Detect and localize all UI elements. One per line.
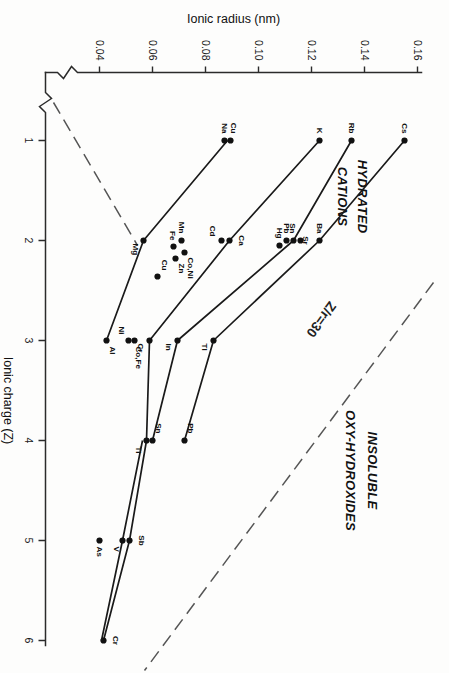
label-sn2: Sn bbox=[287, 223, 296, 233]
y-axis-title: Ionic radius (nm) bbox=[186, 11, 279, 25]
y-tick-5: 0.14 bbox=[358, 40, 370, 61]
label-cofe: Co,Fe bbox=[133, 346, 142, 369]
x-tick-3: 3 bbox=[22, 337, 34, 343]
label-sn4: Sn bbox=[153, 423, 162, 433]
point-cu1 bbox=[227, 137, 233, 143]
label-cu1: Cu bbox=[228, 122, 237, 133]
point-sb bbox=[126, 537, 132, 543]
boundary-zr30 bbox=[53, 102, 433, 670]
y-tick-0: 0.04 bbox=[93, 40, 105, 61]
x-axis-title: Ionic charge (Z) bbox=[0, 356, 14, 444]
point-cs bbox=[401, 137, 407, 143]
y-tick-4: 0.12 bbox=[305, 40, 317, 61]
label-as: As bbox=[94, 546, 103, 557]
label-sb: Sb bbox=[136, 535, 145, 545]
label-k: K bbox=[314, 127, 323, 133]
y-axis-ticks bbox=[99, 66, 417, 72]
point-fe bbox=[170, 243, 176, 249]
point-mn bbox=[178, 237, 184, 243]
point-pb2 bbox=[283, 237, 289, 243]
point-hg bbox=[276, 242, 282, 248]
label-mn: Mn bbox=[176, 221, 185, 233]
boundary-label-zr30: Z/r=30 bbox=[303, 298, 339, 339]
label-in: In bbox=[163, 343, 172, 350]
x-tick-4: 4 bbox=[22, 437, 34, 443]
x-tick-6: 6 bbox=[22, 637, 34, 643]
label-tl: Tl bbox=[199, 343, 208, 350]
point-in bbox=[174, 337, 180, 343]
region-label-insoluble-oxyhydroxides: INSOLUBLE OXY-HYDROXIDES bbox=[342, 410, 379, 531]
label-fe: Fe bbox=[167, 231, 176, 241]
ionic-radius-vs-charge-chart: 0.04 0.06 0.08 0.10 0.12 0.14 0.16 Ionic… bbox=[0, 0, 449, 673]
label-na: Na bbox=[219, 123, 228, 134]
label-al: Al bbox=[107, 346, 116, 354]
point-cofe bbox=[131, 337, 137, 343]
figure-page: 0.04 0.06 0.08 0.10 0.12 0.14 0.16 Ionic… bbox=[0, 0, 449, 673]
point-ti4 bbox=[143, 437, 149, 443]
scatter-z2-cluster: Pb Sn Hg Cd Mn Co,Ni Fe Zn Cu bbox=[154, 221, 303, 279]
label-mg: Mg bbox=[130, 243, 139, 255]
point-coni bbox=[181, 249, 187, 255]
label-pb4: Pb bbox=[185, 423, 194, 433]
series-k-ca-cr-sb-cr6: K Ca Cr Ti Sb Cr bbox=[100, 127, 323, 645]
y-tick-1: 0.06 bbox=[146, 40, 158, 61]
region-label-hydrated-cations: HYDRATED CATIONS bbox=[334, 159, 369, 233]
point-ni3 bbox=[125, 337, 131, 343]
x-tick-1: 1 bbox=[22, 137, 34, 143]
point-cu2 bbox=[154, 273, 160, 279]
label-ca: Ca bbox=[236, 235, 245, 246]
series-rb-sr-in-sn: Rb Sr In Sn bbox=[149, 122, 355, 443]
label-rb: Rb bbox=[346, 122, 355, 133]
label-cs: Cs bbox=[399, 123, 408, 134]
label-v: V bbox=[111, 546, 120, 552]
region-hydrated-line2: CATIONS bbox=[334, 166, 349, 226]
label-coni: Co,Ni bbox=[185, 257, 194, 278]
label-hg: Hg bbox=[274, 227, 283, 238]
point-sn4 bbox=[149, 437, 155, 443]
point-as bbox=[96, 537, 102, 543]
label-zn: Zn bbox=[176, 263, 185, 273]
y-tick-6: 0.16 bbox=[411, 40, 423, 61]
x-axis-tick-labels: 1 2 3 4 5 6 bbox=[22, 137, 34, 643]
x-tick-2: 2 bbox=[22, 237, 34, 243]
point-k bbox=[316, 137, 322, 143]
point-na bbox=[221, 137, 227, 143]
x-tick-5: 5 bbox=[22, 537, 34, 543]
point-pb4 bbox=[181, 437, 187, 443]
label-cr6: Cr bbox=[110, 636, 119, 646]
label-ba: Ba bbox=[314, 223, 323, 234]
region-insoluble-line2: OXY-HYDROXIDES bbox=[342, 410, 357, 531]
region-insoluble-line1: INSOLUBLE bbox=[364, 431, 379, 509]
x-axis-ticks bbox=[38, 140, 45, 640]
point-cd bbox=[218, 237, 224, 243]
label-cu2: Cu bbox=[159, 259, 168, 270]
x-axis bbox=[39, 72, 51, 645]
scatter-z3-z5: Ni Co,Fe As bbox=[94, 326, 142, 557]
label-cd: Cd bbox=[207, 225, 216, 236]
y-tick-3: 0.10 bbox=[252, 40, 264, 61]
chart-canvas: 0.04 0.06 0.08 0.10 0.12 0.14 0.16 Ionic… bbox=[0, 0, 449, 673]
point-rb bbox=[348, 137, 354, 143]
point-v bbox=[119, 537, 125, 543]
point-zn bbox=[172, 255, 178, 261]
y-tick-2: 0.08 bbox=[199, 40, 211, 61]
y-axis-tick-labels: 0.04 0.06 0.08 0.10 0.12 0.14 0.16 bbox=[93, 40, 423, 61]
series-cs-ba-tl-pb: Cs Ba Tl Pb bbox=[181, 123, 408, 443]
label-ni3: Ni bbox=[116, 326, 125, 334]
